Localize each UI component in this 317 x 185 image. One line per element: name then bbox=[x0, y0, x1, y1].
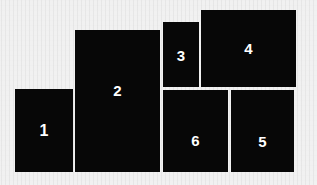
rect-6-label: 6 bbox=[191, 133, 199, 148]
rect-3-label: 3 bbox=[177, 48, 185, 63]
rect-1-label: 1 bbox=[40, 123, 49, 139]
rect-3[interactable]: 3 bbox=[163, 22, 199, 87]
rect-6[interactable]: 6 bbox=[163, 90, 228, 172]
rect-2[interactable]: 2 bbox=[75, 30, 160, 172]
rect-4-label: 4 bbox=[244, 41, 252, 56]
rect-4[interactable]: 4 bbox=[201, 10, 296, 87]
rect-1[interactable]: 1 bbox=[15, 89, 73, 172]
packing-canvas: 1 2 3 4 5 6 bbox=[0, 0, 317, 185]
rect-2-label: 2 bbox=[113, 83, 121, 98]
rect-5[interactable]: 5 bbox=[231, 90, 294, 172]
rect-5-label: 5 bbox=[258, 134, 266, 149]
